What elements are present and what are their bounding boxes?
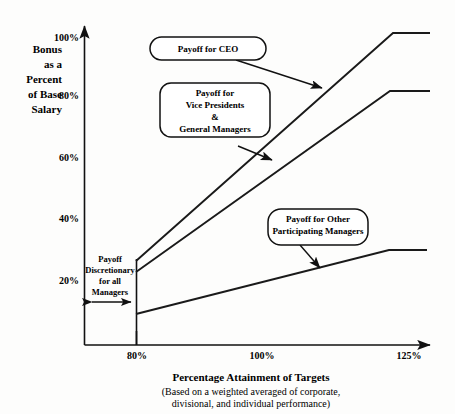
x-tick-label-100: 100% <box>250 350 275 361</box>
y-axis-title-line-5: Salary <box>31 103 62 115</box>
callout-vp-gm[interactable]: Payoff for Vice Presidents & General Man… <box>160 83 272 160</box>
y-tick-label-60: 60% <box>59 152 79 163</box>
y-axis-title-line-3: Percent <box>26 73 62 85</box>
y-axis-title: Bonus as a Percent of Base Salary <box>26 43 63 115</box>
x-axis-title-group: Percentage Attainment of Targets (Based … <box>162 371 341 410</box>
series-line-other-managers <box>136 250 427 314</box>
x-tick-labels: 80% 100% 125% <box>127 350 422 361</box>
callout-other-managers-leader <box>300 245 320 268</box>
y-tick-label-40: 40% <box>59 213 79 224</box>
y-tick-label-100: 100% <box>54 32 79 43</box>
callout-vp-gm-leader <box>238 146 272 160</box>
y-axis-title-line-4: of Base <box>28 88 62 100</box>
callout-other-managers-label-line-2: Participating Managers <box>272 226 364 236</box>
callout-vp-gm-label-line-1: Payoff for <box>196 88 235 98</box>
bonus-payoff-chart: 100% 80% 60% 40% 20% 80% 100% 125% Bonus… <box>0 0 455 414</box>
note-discretionary: Payoff Discretionary for all Managers <box>85 254 135 302</box>
callout-ceo-label: Payoff for CEO <box>178 44 238 54</box>
callout-vp-gm-label-line-4: General Managers <box>179 124 251 134</box>
note-discretionary-line-4: Managers <box>92 287 129 297</box>
y-axis-title-line-1: Bonus <box>33 43 63 55</box>
x-axis-subtitle-line-1: (Based on a weighted averaged of corpora… <box>162 386 341 398</box>
callout-vp-gm-label-line-2: Vice Presidents <box>186 100 245 110</box>
x-tick-label-125: 125% <box>397 350 422 361</box>
note-discretionary-line-2: Discretionary <box>85 265 135 275</box>
callout-other-managers-label-line-1: Payoff for Other <box>286 214 350 224</box>
callout-ceo[interactable]: Payoff for CEO <box>150 37 322 88</box>
note-discretionary-line-3: for all <box>99 276 121 286</box>
y-tick-labels: 100% 80% 60% 40% 20% <box>54 32 79 286</box>
x-axis-title: Percentage Attainment of Targets <box>172 371 330 383</box>
chart-page: 100% 80% 60% 40% 20% 80% 100% 125% Bonus… <box>0 0 455 414</box>
y-axis-title-line-2: as a <box>44 58 63 70</box>
x-axis-subtitle-line-2: divisional, and individual performance) <box>172 398 330 410</box>
y-tick-label-80: 80% <box>59 90 79 101</box>
callout-vp-gm-label-line-3: & <box>211 112 219 122</box>
y-tick-label-20: 20% <box>59 275 79 286</box>
x-tick-label-80: 80% <box>127 350 147 361</box>
note-discretionary-line-1: Payoff <box>98 254 122 264</box>
